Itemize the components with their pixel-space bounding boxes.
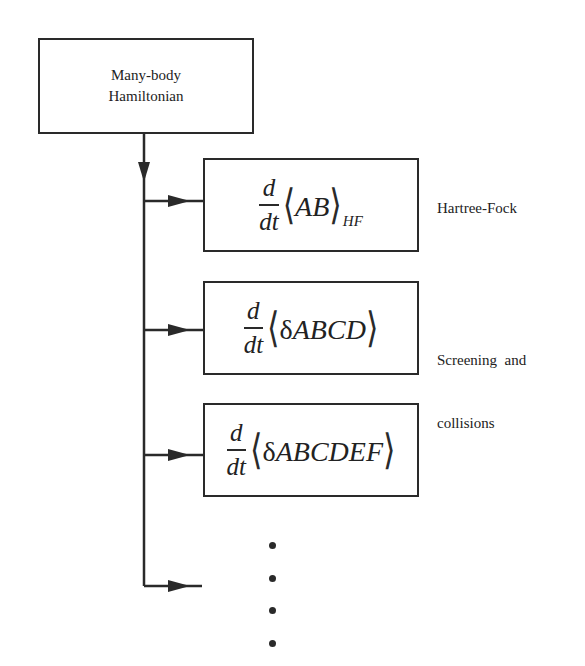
ellipsis-dot	[269, 607, 276, 614]
subscript: HF	[343, 213, 363, 230]
ellipsis-dot	[269, 640, 276, 647]
time-derivative: d dt	[244, 298, 263, 358]
hartree-fock-label: Hartree-Fock	[437, 198, 517, 219]
correlation-expectation: ⟨ δ ABCD ⟩	[267, 309, 378, 347]
ellipsis-dot	[269, 542, 276, 549]
expectation-value: ⟨ AB ⟩ HF	[283, 186, 363, 224]
correlation-expectation: ⟨ δ ABCDEF ⟩	[250, 431, 395, 469]
trunk-arrowhead	[138, 162, 150, 182]
screening-collisions-equation-box: d dt ⟨ δ ABCD ⟩	[203, 281, 419, 375]
six-point-correlation-equation-box: d dt ⟨ δ ABCDEF ⟩	[203, 403, 419, 497]
time-derivative: d dt	[227, 420, 246, 480]
ellipsis-dot	[269, 575, 276, 582]
screening-collisions-label: Screening and collisions	[437, 308, 526, 455]
top-box-line1: Many-body	[111, 65, 181, 86]
many-body-hamiltonian-box: Many-body Hamiltonian	[38, 38, 254, 134]
hartree-fock-equation-box: d dt ⟨ AB ⟩ HF	[203, 158, 419, 252]
time-derivative: d dt	[259, 175, 278, 235]
top-box-line2: Hamiltonian	[109, 86, 184, 107]
